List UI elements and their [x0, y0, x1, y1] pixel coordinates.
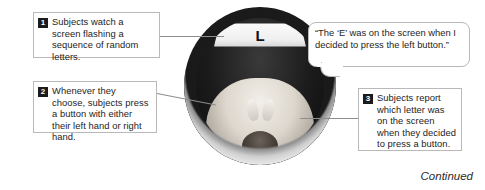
- experiment-figure: L 1 Subjects watch a screen flashing a s…: [0, 0, 485, 190]
- step-text-1: Subjects watch a screen flashing a seque…: [52, 16, 154, 62]
- step-number-badge-3: 3: [363, 94, 373, 104]
- step-text-3: Subjects report which letter was on the …: [377, 92, 456, 150]
- callout-step-1: 1 Subjects watch a screen flashing a seq…: [33, 12, 160, 58]
- callout-step-3: 3 Subjects report which letter was on th…: [358, 88, 462, 151]
- continued-label: Continued: [421, 170, 473, 182]
- subject-quote-bubble: “The ‘E’ was on the screen when I decide…: [308, 22, 470, 67]
- quote-bubble-tail-mask: [317, 63, 343, 67]
- step-number-badge-1: 1: [38, 18, 48, 28]
- subject-quote-text: “The ‘E’ was on the screen when I decide…: [315, 27, 463, 51]
- leader-line-step-3: [300, 118, 358, 119]
- leader-line-step-1: [160, 36, 224, 37]
- step-text-2: Whenever they choose, subjects press a b…: [52, 85, 151, 143]
- step-number-badge-2: 2: [38, 87, 48, 97]
- callout-step-2: 2 Whenever they choose, subjects press a…: [33, 81, 157, 133]
